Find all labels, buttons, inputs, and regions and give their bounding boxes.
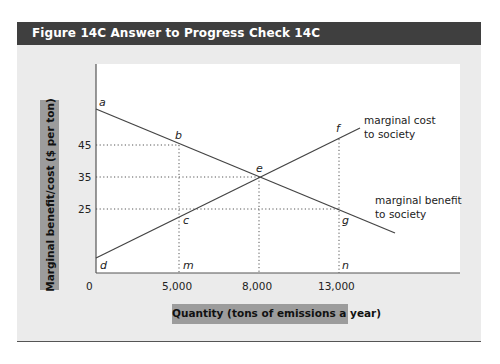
- x-tick-5000: 5,000: [162, 280, 192, 292]
- point-a: a: [99, 96, 106, 109]
- point-c: c: [183, 214, 189, 227]
- x-tick-8000: 8,000: [242, 280, 272, 292]
- point-f: f: [336, 122, 342, 135]
- chart-svg: 45 35 25 0 5,000 8,000 13,000 a b c d e …: [0, 0, 500, 364]
- marginal-cost-line: [96, 128, 360, 258]
- mb-annotation-line1: marginal benefit: [375, 194, 462, 206]
- y-tick-25: 25: [78, 203, 91, 215]
- marginal-benefit-line: [96, 109, 395, 233]
- point-d: d: [100, 259, 108, 272]
- x-tick-13000: 13,000: [318, 280, 355, 292]
- point-e: e: [256, 162, 263, 175]
- x-tick-0: 0: [86, 280, 93, 292]
- point-g: g: [342, 214, 349, 227]
- point-b: b: [175, 129, 182, 142]
- mb-annotation-line2: to society: [375, 208, 426, 220]
- mc-annotation-line2: to society: [364, 128, 415, 140]
- y-tick-35: 35: [78, 171, 91, 183]
- mc-annotation-line1: marginal cost: [364, 114, 436, 126]
- point-m: m: [183, 259, 194, 272]
- point-n: n: [342, 259, 349, 272]
- y-tick-45: 45: [78, 139, 91, 151]
